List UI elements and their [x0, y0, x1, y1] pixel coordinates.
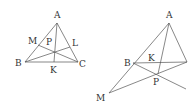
label-p: P: [46, 37, 52, 47]
label-k: K: [50, 65, 57, 75]
label-a: A: [165, 10, 173, 20]
label-b: B: [124, 58, 131, 68]
label-k: K: [148, 53, 155, 63]
line-am: [109, 23, 169, 93]
left-figure: A B C M L K P: [15, 10, 86, 75]
line-mc: [109, 62, 187, 93]
right-figure: A B K P M: [96, 10, 187, 103]
label-m: M: [96, 93, 105, 103]
side-bc: [133, 62, 187, 63]
line-ap: [158, 23, 169, 74]
label-b: B: [15, 58, 22, 68]
label-l: L: [72, 38, 78, 48]
label-m: M: [28, 36, 37, 46]
label-p: P: [153, 77, 159, 87]
cevian-ak: [54, 23, 57, 62]
label-c: C: [79, 59, 86, 69]
side-ac: [169, 23, 187, 62]
geometry-diagram: A B C M L K P A B K P M: [0, 0, 188, 104]
label-a: A: [53, 10, 61, 20]
